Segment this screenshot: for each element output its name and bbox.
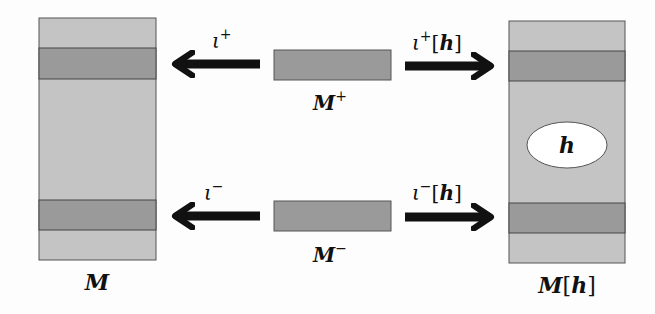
- manifold-M-plus: [274, 50, 391, 80]
- lower-collar-band: [509, 203, 625, 233]
- label-iota-minus: ι−: [204, 178, 224, 205]
- lower-collar-band: [39, 200, 156, 230]
- label-M-plus: M+: [312, 88, 347, 115]
- manifold-M: [39, 18, 156, 260]
- label-M-minus: M−: [312, 240, 347, 267]
- diagram-canvas: M M+ M− h M[h] ι+ ι− ι+[h] ι−[h]: [0, 0, 655, 314]
- upper-collar-band: [39, 48, 156, 79]
- upper-collar-band: [509, 51, 625, 81]
- label-h: h: [559, 132, 575, 158]
- label-M: M: [84, 269, 110, 295]
- label-iota-plus-h: ι+[h]: [412, 28, 462, 55]
- label-iota-plus: ι+: [212, 26, 232, 53]
- label-iota-minus-h: ι−[h]: [412, 178, 462, 205]
- manifold-M-minus: [274, 201, 391, 231]
- label-M-h: M[h]: [537, 272, 596, 298]
